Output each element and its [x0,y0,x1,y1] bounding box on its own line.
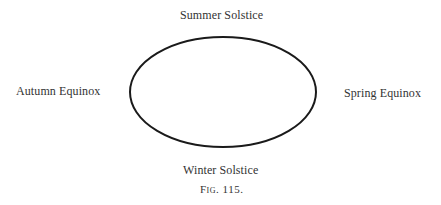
summer-solstice-label: Summer Solstice [180,8,263,23]
figure-caption: Fig. 115. [200,183,243,195]
orbit-ellipse [130,37,316,147]
winter-solstice-label: Winter Solstice [183,163,258,178]
autumn-equinox-label: Autumn Equinox [16,84,100,99]
spring-equinox-label: Spring Equinox [344,86,421,101]
